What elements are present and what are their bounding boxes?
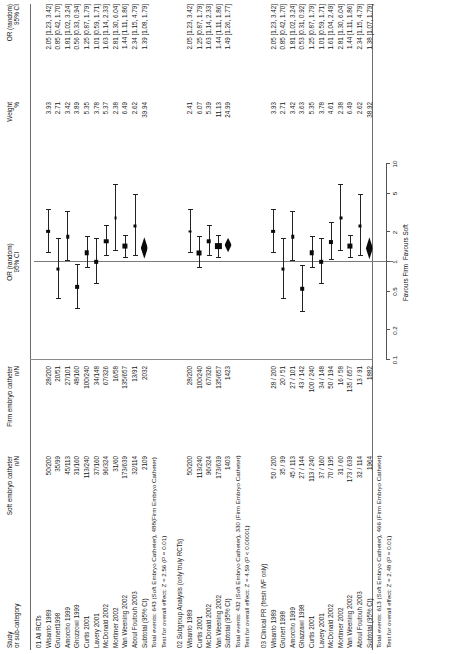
axis-tick xyxy=(386,261,390,262)
ci-cap-right xyxy=(300,265,305,266)
effect-size-box xyxy=(197,250,202,255)
soft-catheter-events: 70 / 195 xyxy=(326,456,336,542)
graph-cell xyxy=(374,164,384,360)
header-plot-line2: 95% CI xyxy=(13,164,20,360)
odds-ratio-value: 1.81 [1.02, 3.24] xyxy=(288,4,298,98)
header-soft-line2: n/N xyxy=(13,456,20,542)
table-row xyxy=(252,0,259,654)
table-row: Subtotal (95% CI)1403142324.991.49 [1.26… xyxy=(223,0,233,654)
study-marker xyxy=(185,164,195,360)
section-note-1: Total events: 613 (Soft Embryo Catheter)… xyxy=(374,498,384,648)
null-line-segment xyxy=(233,261,243,262)
odds-ratio-value: 1.44 [1.11, 1.86] xyxy=(214,4,224,98)
ci-cap-left xyxy=(348,257,353,258)
odds-ratio-value: 2.34 [1.15, 4.79] xyxy=(130,4,140,98)
study-marker xyxy=(317,164,327,360)
null-line-segment xyxy=(34,261,44,262)
ci-cap-left xyxy=(85,267,90,268)
ci-cap-left xyxy=(329,259,334,260)
firm-catheter-events: 28 / 200 xyxy=(269,366,279,452)
firm-catheter-events: 100/240 xyxy=(82,366,92,452)
header-firm-catheter: Firm embryo catheter n/N xyxy=(6,366,21,452)
table-row: 03 Clinical PR (fresh IVF only) xyxy=(259,0,269,654)
section-label: 01 All RCTs xyxy=(34,498,44,648)
ci-cap-left xyxy=(310,267,315,268)
axis-tick xyxy=(386,359,390,360)
ci-cap-left xyxy=(75,308,80,309)
ci-cap-left xyxy=(290,260,295,261)
study-marker xyxy=(44,164,54,360)
null-line-segment xyxy=(297,261,307,262)
favours-firm-label: Favours Firm xyxy=(402,264,409,301)
effect-size-box xyxy=(358,224,361,227)
table-row: Total events: 613 (Soft Embryo Catheter)… xyxy=(374,0,384,654)
section-note-2: Test for overall effect: Z = 2.48 (P = 0… xyxy=(384,498,394,648)
odds-ratio-value: 0.53 [0.31, 0.92] xyxy=(297,4,307,98)
weight-value: 11.13 xyxy=(214,102,224,160)
firm-catheter-events: 16 / 58 xyxy=(336,366,346,452)
weight-value: 6.49 xyxy=(345,102,355,160)
weight-value: 5.39 xyxy=(204,102,214,160)
soft-catheter-events: 50 / 200 xyxy=(269,456,279,542)
effect-size-box xyxy=(310,250,315,255)
study-marker xyxy=(82,164,92,360)
soft-catheter-events: 96/324 xyxy=(101,456,111,542)
null-line-segment xyxy=(140,261,150,262)
ci-cap-left xyxy=(46,252,51,253)
subtotal-firm-total: 2032 xyxy=(140,366,150,452)
study-marker xyxy=(92,164,102,360)
null-line-segment xyxy=(111,261,121,262)
table-row: Van Weening 2002173/639135/65711.131.44 … xyxy=(214,0,224,654)
graph-cell xyxy=(233,164,243,360)
effect-size-box xyxy=(123,244,128,249)
table-row: Subtotal (95% CI)2109203239.941.39 [1.08… xyxy=(140,0,150,654)
firm-catheter-events: 20/51 xyxy=(53,366,63,452)
effect-size-box xyxy=(348,244,353,249)
ci-cap-right xyxy=(338,184,343,185)
ci-cap-right xyxy=(104,225,109,226)
weight-value: 3.42 xyxy=(63,102,73,160)
study-marker xyxy=(355,164,365,360)
subtotal-soft-total: 1403 xyxy=(223,456,233,542)
effect-size-box xyxy=(339,217,342,220)
diamond-shape xyxy=(225,238,232,252)
table-row: McDonald 200270 / 19550 / 1944.611.61 [1… xyxy=(326,0,336,654)
study-marker xyxy=(288,164,298,360)
table-row: Mortimer 200231 / 6016 / 582.382.81 [1.3… xyxy=(336,0,346,654)
soft-catheter-events: 45 / 113 xyxy=(288,456,298,542)
section-label: 02 Subgroup Analysis (only truly RCTs) xyxy=(175,498,185,648)
weight-value: 5.37 xyxy=(101,102,111,160)
header-weight: Weight % xyxy=(6,102,21,160)
odds-ratio-value: 2.05 [1.23, 3.42] xyxy=(185,4,195,98)
forest-plot-sheet: Study or sub-category Soft embryo cathet… xyxy=(0,0,472,654)
header-soft-catheter: Soft embryo catheter n/N xyxy=(6,456,21,542)
odds-ratio-value: 1.61 [1.04, 2.49] xyxy=(326,4,336,98)
section-note-2: Test for overall effect: Z = 4.59 (P < 0… xyxy=(242,498,252,648)
soft-catheter-events: 27 / 144 xyxy=(297,456,307,542)
header-study-line2: or sub-category xyxy=(13,544,20,648)
study-marker xyxy=(204,164,214,360)
ci-cap-right xyxy=(281,238,286,239)
effect-size-box xyxy=(320,260,324,264)
header-firm-line2: n/N xyxy=(13,366,20,452)
weight-value: 2.71 xyxy=(278,102,288,160)
null-line-segment xyxy=(336,261,346,262)
table-row: Aboul Foutouh 200332/11413/912.622.34 [1… xyxy=(130,0,140,654)
ci-cap-right xyxy=(358,194,363,195)
pooled-diamond xyxy=(365,164,375,360)
header-plot: OR (random) 95% CI xyxy=(6,164,21,360)
weight-value: 2.62 xyxy=(355,102,365,160)
graph-cell xyxy=(242,164,252,360)
null-line-segment xyxy=(259,261,269,262)
weight-value: 2.38 xyxy=(111,102,121,160)
ci-cap-right xyxy=(329,222,334,223)
table-row: McDonald 200296/32467/3265.371.63 [1.14,… xyxy=(101,0,111,654)
soft-catheter-events: 113/240 xyxy=(82,456,92,542)
ci-cap-right xyxy=(271,209,276,210)
firm-catheter-events: 43 / 142 xyxy=(297,366,307,452)
soft-catheter-events: 173 / 639 xyxy=(345,456,355,542)
soft-catheter-events: 37 / 160 xyxy=(317,456,327,542)
ci-cap-left xyxy=(133,255,138,256)
weight-value: 3.78 xyxy=(317,102,327,160)
odds-ratio-value: 2.81 [1.30, 6.04] xyxy=(336,4,346,98)
